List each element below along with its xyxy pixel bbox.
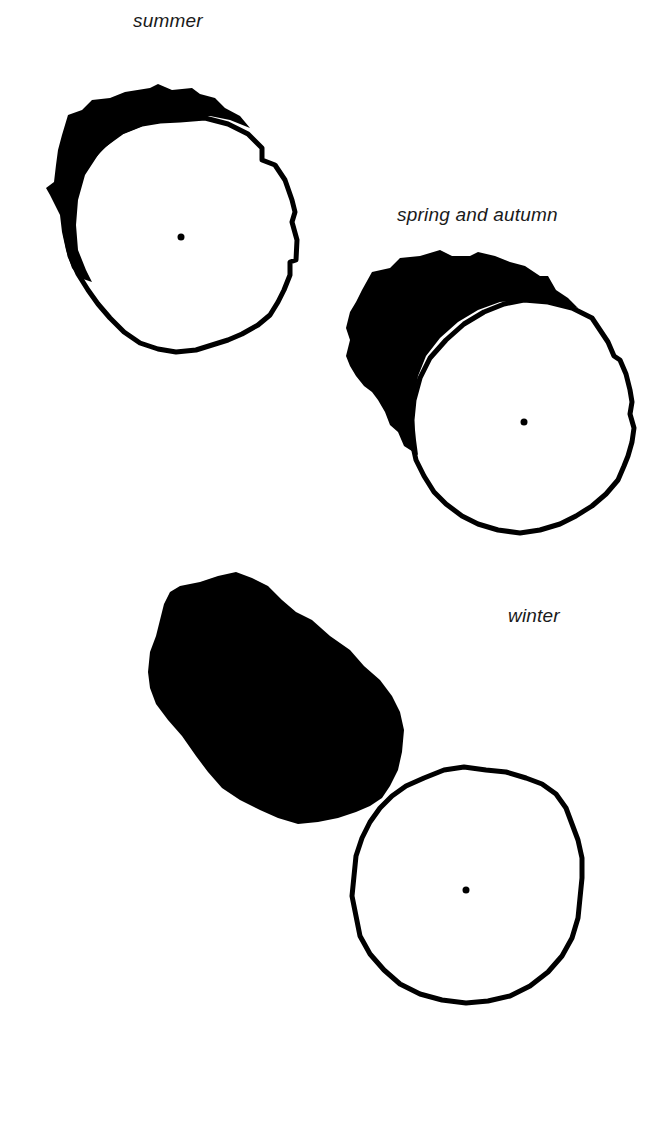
center-dot-winter [463, 887, 470, 894]
label-winter: winter [508, 605, 560, 627]
center-dot-spring-autumn [521, 419, 528, 426]
panel-summer [46, 84, 297, 352]
panel-winter [148, 572, 582, 1003]
label-summer: summer [133, 10, 203, 32]
season-shadow-diagram: summer spring and autumn winter [0, 0, 665, 1135]
panel-spring-autumn [346, 250, 634, 533]
circle-winter [352, 767, 582, 1003]
diagram-canvas [0, 0, 665, 1135]
circle-spring-autumn [412, 300, 634, 533]
shadow-winter [148, 572, 404, 824]
center-dot-summer [178, 234, 185, 241]
label-spring-autumn: spring and autumn [397, 204, 558, 226]
shadow-spring-autumn [346, 250, 578, 455]
